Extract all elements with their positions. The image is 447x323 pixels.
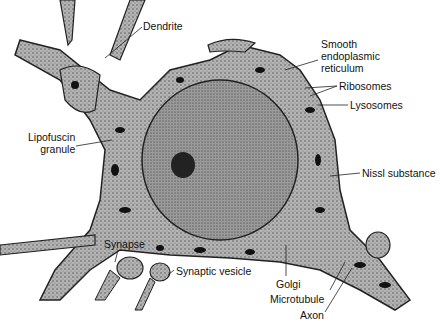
label-lysosomes: Lysosomes (350, 99, 403, 111)
label-ribosomes: Ribosomes (339, 80, 392, 92)
dendrite-bulb (60, 66, 100, 112)
neuron-diagram: Dendrite Smooth endoplasmic reticulum Ri… (0, 0, 447, 323)
label-axon: Axon (300, 309, 324, 321)
label-golgi: Golgi (276, 278, 301, 290)
label-synaptic-vesicle: Synaptic vesicle (176, 265, 251, 277)
nucleus (142, 80, 298, 240)
label-smooth-endoplasmic-reticulum: Smooth endoplasmic reticulum (321, 38, 380, 74)
synaptic-vesicle-terminal (150, 263, 170, 281)
label-synapse: Synapse (104, 238, 145, 250)
label-lipofuscin-granule: Lipofuscin granule (28, 131, 75, 155)
label-microtubule: Microtubule (270, 293, 324, 305)
label-dendrite: Dendrite (143, 20, 183, 32)
nucleolus (171, 152, 195, 178)
axon-bulb (366, 232, 390, 258)
synapse-terminal (117, 257, 143, 279)
label-nissl-substance: Nissl substance (362, 167, 436, 179)
